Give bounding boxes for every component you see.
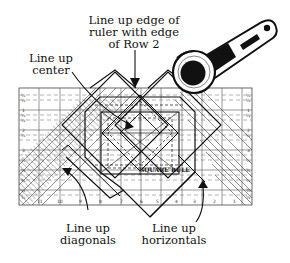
label-line-up-edge: Line up edge of ruler with edge of Row 2 <box>80 14 188 50</box>
svg-text:3: 3 <box>247 148 250 153</box>
svg-text:1: 1 <box>233 199 236 204</box>
svg-text:10: 10 <box>57 199 63 204</box>
label-line-up-horizontals: Line up horizontals <box>134 222 214 246</box>
svg-text:7: 7 <box>120 199 123 204</box>
svg-text:6: 6 <box>140 199 143 204</box>
svg-text:3: 3 <box>22 148 25 153</box>
svg-text:4: 4 <box>175 199 178 204</box>
svg-text:¼: ¼ <box>21 158 26 163</box>
label-line-up-center: Line up center <box>26 52 76 76</box>
svg-text:½: ½ <box>246 113 251 118</box>
svg-text:½: ½ <box>246 98 251 103</box>
svg-text:½: ½ <box>21 168 26 173</box>
svg-text:8: 8 <box>99 199 102 204</box>
label-line-up-diagonals: Line up diagonals <box>55 222 121 246</box>
svg-text:9: 9 <box>79 199 82 204</box>
svg-text:¾: ¾ <box>21 195 26 200</box>
svg-text:½: ½ <box>21 188 26 193</box>
label-line-up-horizontals-line-2: horizontals <box>134 234 214 246</box>
diagram-stage: ¼ ½ 1 ¼ ½ 2 ¼ 3 ¼ ½ ¾ ½ ¾ ¼ ½ 1 ½ 2 <box>0 0 290 263</box>
svg-text:2: 2 <box>213 199 216 204</box>
svg-text:¾: ¾ <box>246 168 251 173</box>
svg-text:¾: ¾ <box>21 178 26 183</box>
svg-text:5: 5 <box>156 199 159 204</box>
svg-text:½: ½ <box>246 178 251 183</box>
svg-text:½: ½ <box>246 195 251 200</box>
svg-text:½: ½ <box>21 98 26 103</box>
svg-text:½: ½ <box>246 158 251 163</box>
arrow-down-icon <box>130 50 140 88</box>
svg-text:½: ½ <box>21 118 26 123</box>
svg-text:¼: ¼ <box>21 133 26 138</box>
ruler-brand-text: SQUARE RULE <box>140 166 190 174</box>
svg-text:¾: ¾ <box>246 188 251 193</box>
label-line-up-center-line-2: center <box>26 64 76 76</box>
svg-text:11: 11 <box>37 199 43 204</box>
rotary-cutter-icon <box>173 20 277 93</box>
svg-text:½: ½ <box>246 133 251 138</box>
label-line-up-edge-line-3: of Row 2 <box>80 38 188 50</box>
label-line-up-diagonals-line-2: diagonals <box>55 234 121 246</box>
svg-text:3: 3 <box>193 199 196 204</box>
